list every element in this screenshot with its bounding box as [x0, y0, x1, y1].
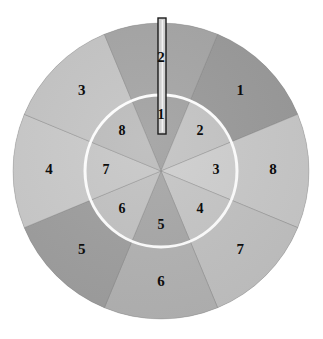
outer-label-4: 4	[45, 161, 53, 177]
inner-label-2: 2	[196, 123, 203, 138]
inner-label-8: 8	[119, 123, 126, 138]
outer-label-2: 2	[157, 49, 165, 65]
figure-canvas: 18765432 12345678	[0, 0, 323, 339]
outer-label-7: 7	[236, 241, 244, 257]
outer-label-5: 5	[78, 241, 86, 257]
disc-diagram: 18765432 12345678	[0, 0, 323, 339]
inner-label-5: 5	[158, 217, 165, 232]
inner-label-1: 1	[158, 107, 165, 122]
outer-label-1: 1	[236, 82, 244, 98]
inner-label-4: 4	[196, 201, 203, 216]
inner-label-3: 3	[213, 162, 220, 177]
inner-label-6: 6	[119, 201, 126, 216]
outer-label-6: 6	[157, 273, 165, 289]
inner-label-7: 7	[103, 162, 110, 177]
outer-label-3: 3	[78, 82, 86, 98]
outer-label-8: 8	[269, 161, 277, 177]
